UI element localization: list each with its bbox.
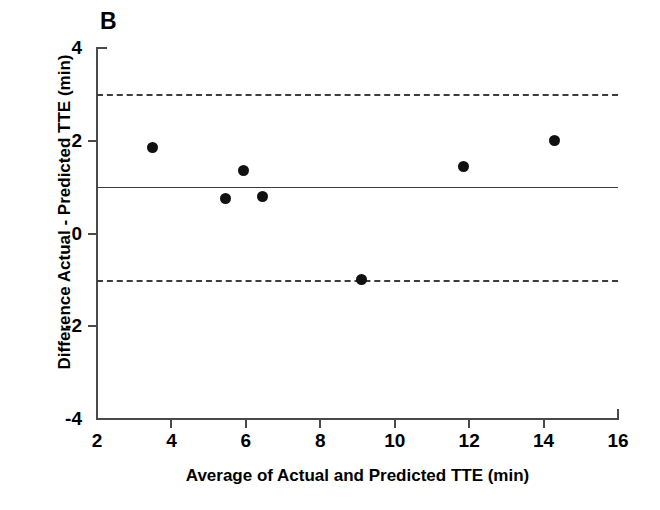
y-axis-title: Difference Actual - Predicted TTE (min) [55, 2, 75, 422]
bland-altman-plot-figure: B Difference Actual - Predicted TTE (min… [0, 0, 660, 510]
y-axis-tick [88, 325, 97, 327]
data-point [257, 191, 268, 202]
y-axis-tick-label: -2 [48, 316, 82, 335]
x-axis-tick [170, 419, 172, 428]
y-axis-tick-label: -4 [48, 409, 82, 428]
x-axis-title: Average of Actual and Predicted TTE (min… [97, 466, 618, 486]
x-axis-tick [543, 419, 545, 428]
y-axis-tick-label: 0 [48, 224, 82, 243]
x-axis-tick [245, 419, 247, 428]
y-axis-tick-label: 2 [48, 131, 82, 150]
data-point [238, 165, 249, 176]
panel-label: B [100, 10, 117, 33]
data-point [356, 274, 367, 285]
x-axis-tick [468, 419, 470, 428]
x-axis-tick [394, 419, 396, 428]
data-point [220, 193, 231, 204]
data-point [458, 161, 469, 172]
y-axis-tick [88, 233, 97, 235]
x-axis-tick-label: 6 [226, 431, 266, 450]
mean-bias [97, 187, 618, 188]
x-axis-tick-label: 12 [449, 431, 489, 450]
x-axis-tick-label: 14 [524, 431, 564, 450]
upper-limit-of-agreement [97, 94, 618, 96]
y-axis-tick-label: 4 [48, 38, 82, 57]
x-axis-tick-label: 2 [77, 431, 117, 450]
x-axis-tick-label: 8 [300, 431, 340, 450]
x-axis-tick-label: 16 [598, 431, 638, 450]
x-axis-tick [319, 419, 321, 428]
y-axis-tick [88, 140, 97, 142]
data-point [147, 142, 158, 153]
data-point [549, 135, 560, 146]
plot-area [97, 48, 618, 419]
x-axis-tick-label: 4 [151, 431, 191, 450]
x-axis-tick-label: 10 [375, 431, 415, 450]
